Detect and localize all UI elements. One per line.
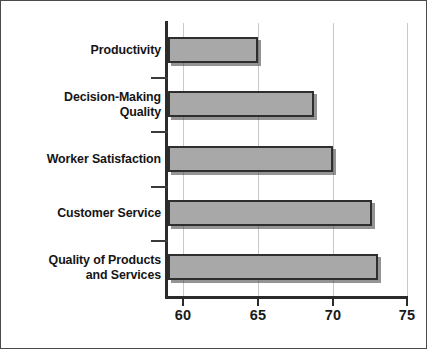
category-label-worker-satisfaction: Worker Satisfaction bbox=[11, 152, 161, 167]
category-label-line: Productivity bbox=[11, 43, 161, 58]
category-label-quality-of-products-and-services: Quality of Products and Services bbox=[11, 253, 161, 282]
x-axis-line bbox=[165, 296, 408, 299]
category-label-group: Productivity Decision-Making Quality Wor… bbox=[1, 1, 161, 349]
category-label-line: Quality bbox=[11, 105, 161, 120]
gridline-75 bbox=[407, 23, 408, 297]
x-tick-mark-75 bbox=[406, 299, 408, 306]
x-tick-label-75: 75 bbox=[387, 307, 427, 323]
x-tick-mark-60 bbox=[182, 299, 184, 306]
x-tick-label-60: 60 bbox=[163, 307, 203, 323]
bar-quality-of-products-and-services bbox=[168, 254, 378, 280]
chart-figure: Productivity Decision-Making Quality Wor… bbox=[0, 0, 427, 349]
x-tick-label-70: 70 bbox=[313, 307, 353, 323]
category-label-line: Customer Service bbox=[11, 206, 161, 221]
bar-worker-satisfaction bbox=[168, 146, 333, 172]
bar-customer-service bbox=[168, 200, 372, 226]
category-label-line: Worker Satisfaction bbox=[11, 152, 161, 167]
category-label-line: Quality of Products bbox=[11, 253, 161, 268]
category-label-line: and Services bbox=[11, 268, 161, 283]
x-tick-mark-65 bbox=[257, 299, 259, 306]
category-label-productivity: Productivity bbox=[11, 43, 161, 58]
bar-productivity bbox=[168, 37, 258, 63]
bar-decision-making-quality bbox=[168, 91, 314, 117]
category-label-line: Decision-Making bbox=[11, 90, 161, 105]
x-tick-label-65: 65 bbox=[238, 307, 278, 323]
category-label-decision-making-quality: Decision-Making Quality bbox=[11, 90, 161, 119]
category-label-customer-service: Customer Service bbox=[11, 206, 161, 221]
x-tick-mark-70 bbox=[332, 299, 334, 306]
